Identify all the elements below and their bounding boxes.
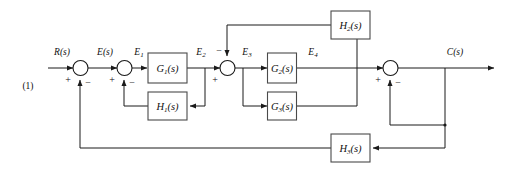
diagram-canvas: G1(s) H1(s) G2(s) G3(s) H2(s) H3(s) R(s)…: [0, 0, 507, 179]
sign-sum4-minus: −: [395, 77, 401, 88]
signal-label-e3: E3: [241, 47, 252, 59]
sign-sum2-minus: −: [129, 77, 135, 88]
signal-label-e1: E1: [133, 47, 143, 59]
signal-label-cs: C(s): [447, 47, 463, 58]
junction-dot-h3-branch: [443, 123, 446, 126]
summing-junction-1[interactable]: [73, 61, 88, 76]
summing-junction-3[interactable]: [220, 61, 235, 76]
sign-sum1-minus: −: [85, 77, 91, 88]
sign-sum4-plus: +: [375, 74, 381, 85]
summing-junction-2[interactable]: [117, 61, 132, 76]
sign-sum3-plus: +: [212, 74, 218, 85]
sign-sum1-plus: +: [65, 74, 71, 85]
signal-label-es: E(s): [96, 47, 113, 58]
signal-label-e2: E2: [195, 47, 206, 59]
block-diagram-figure: G1(s) H1(s) G2(s) G3(s) H2(s) H3(s) R(s)…: [0, 0, 507, 179]
sign-sum3-minus: −: [216, 45, 222, 56]
signal-label-rs: R(s): [53, 47, 70, 58]
sign-sum2-plus: +: [109, 74, 115, 85]
signal-label-e4: E4: [307, 47, 318, 59]
figure-number-label: (1): [22, 81, 33, 92]
summing-junction-4[interactable]: [383, 61, 398, 76]
